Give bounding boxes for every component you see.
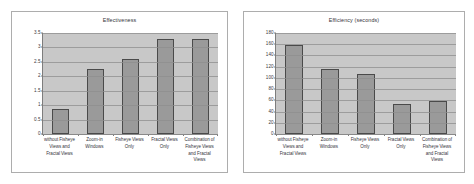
bar xyxy=(393,104,410,134)
plot-area-effectiveness: 3.532.521.510.50 xyxy=(42,33,218,135)
y-axis-tick-label: 140 xyxy=(266,53,274,58)
bar xyxy=(429,101,446,134)
y-axis-tick-label: 40 xyxy=(268,109,273,114)
chart-effectiveness: Effectiveness 3.532.521.510.50 without F… xyxy=(11,11,228,173)
gridline xyxy=(276,33,456,34)
gridline xyxy=(276,112,456,113)
gridline xyxy=(276,134,456,135)
x-axis-labels-effectiveness: without Fisheye Views and Fractal ViewsZ… xyxy=(42,137,217,164)
y-axis-tick-mark xyxy=(274,77,276,78)
y-axis-tick-label: 1 xyxy=(38,103,41,108)
y-axis-tick-label: 0 xyxy=(38,132,41,137)
y-axis-tick-label: 2 xyxy=(38,74,41,79)
x-axis-category-label: Fisheye Views Only xyxy=(347,137,383,164)
gridline xyxy=(43,33,218,34)
charts-page: Effectiveness 3.532.521.510.50 without F… xyxy=(0,0,474,184)
gridline xyxy=(276,89,456,90)
y-axis-tick-mark xyxy=(274,33,276,34)
x-axis-category-label: without Fisheye Views and Fractal Views xyxy=(275,137,311,164)
plot-area-efficiency: 180160140120100806040200 xyxy=(275,33,456,135)
gridline xyxy=(43,120,218,121)
y-axis-tick-label: 0.5 xyxy=(34,117,40,122)
bar xyxy=(122,59,139,134)
y-axis-tick-label: 180 xyxy=(266,31,274,36)
y-axis-tick-mark xyxy=(41,105,43,106)
bar xyxy=(52,109,69,134)
y-axis-tick-label: 20 xyxy=(268,120,273,125)
bar-slot xyxy=(384,33,420,134)
y-axis-tick-label: 60 xyxy=(268,98,273,103)
bar xyxy=(357,74,374,134)
chart-efficiency: Efficiency (seconds) 1801601401201008060… xyxy=(243,11,465,173)
y-axis-tick-label: 3 xyxy=(38,45,41,50)
y-axis-tick-mark xyxy=(274,66,276,67)
x-axis-category-label: Combination of Fisheye Views and Fractal… xyxy=(182,137,217,164)
y-axis-tick-mark xyxy=(41,76,43,77)
y-axis-tick-label: 3.5 xyxy=(34,31,40,36)
y-axis-tick-mark xyxy=(41,61,43,62)
y-axis-tick-mark xyxy=(274,44,276,45)
bar-slot xyxy=(348,33,384,134)
x-axis-category-label: without Fisheye Views and Fractal Views xyxy=(42,137,77,164)
bar-slot xyxy=(312,33,348,134)
y-axis-tick-label: 2.5 xyxy=(34,60,40,65)
gridline xyxy=(43,105,218,106)
y-axis-tick-label: 100 xyxy=(266,76,274,81)
y-axis-tick-label: 80 xyxy=(268,87,273,92)
y-axis-tick-mark xyxy=(41,134,43,135)
y-axis-tick-label: 0 xyxy=(271,132,274,137)
gridline xyxy=(276,55,456,56)
x-axis-category-label: Zoom-in Windows xyxy=(311,137,347,164)
x-axis-category-label: Fractal Views Only xyxy=(383,137,419,164)
x-axis-category-label: Fractal Views Only xyxy=(147,137,182,164)
y-axis-tick-mark xyxy=(274,122,276,123)
bar-series-efficiency xyxy=(276,33,456,134)
y-axis-tick-label: 1.5 xyxy=(34,88,40,93)
y-axis-tick-label: 120 xyxy=(266,64,274,69)
x-axis-labels-efficiency: without Fisheye Views and Fractal ViewsZ… xyxy=(275,137,455,164)
x-axis-category-label: Combination of Fisheye Views and Fractal… xyxy=(419,137,455,164)
gridline xyxy=(276,78,456,79)
y-axis-tick-mark xyxy=(274,134,276,135)
y-axis-tick-mark xyxy=(274,55,276,56)
y-axis-tick-mark xyxy=(274,100,276,101)
gridline xyxy=(43,76,218,77)
bar-slot xyxy=(420,33,456,134)
gridline xyxy=(43,91,218,92)
chart-title-efficiency: Efficiency (seconds) xyxy=(244,17,464,23)
y-axis-tick-mark xyxy=(41,33,43,34)
x-axis-category-label: Fisheye Views Only xyxy=(112,137,147,164)
y-axis-tick-mark xyxy=(41,119,43,120)
y-axis-tick-mark xyxy=(41,90,43,91)
gridline xyxy=(276,44,456,45)
y-axis-tick-label: 160 xyxy=(266,42,274,47)
bar xyxy=(87,69,104,134)
gridline xyxy=(43,134,218,135)
gridline xyxy=(276,100,456,101)
x-axis-category-label: Zoom-in Windows xyxy=(77,137,112,164)
gridline xyxy=(276,123,456,124)
gridline xyxy=(43,62,218,63)
bar xyxy=(321,69,338,134)
gridline xyxy=(43,47,218,48)
chart-title-effectiveness: Effectiveness xyxy=(12,17,227,23)
y-axis-tick-mark xyxy=(41,47,43,48)
y-axis-tick-mark xyxy=(274,89,276,90)
bar-slot xyxy=(276,33,312,134)
y-axis-tick-mark xyxy=(274,111,276,112)
gridline xyxy=(276,67,456,68)
